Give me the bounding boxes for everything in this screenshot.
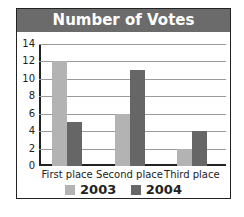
y-tick-label: 6 [21,109,35,119]
plot-area: 02468101214 [39,44,226,166]
bar-2003-second-place [115,114,130,166]
legend-item-2004: 2004 [131,182,182,197]
y-tick-label: 10 [21,74,35,84]
x-tick-label: Third place [157,169,227,180]
gridline [39,44,226,45]
y-tick-label: 12 [21,56,35,66]
x-tick-label: Second place [95,169,165,180]
chart-frame: Number of Votes 02468101214 First placeS… [16,8,231,199]
legend-label-2004: 2004 [146,182,182,197]
y-tick-label: 2 [21,144,35,154]
chart-title: Number of Votes [17,9,230,32]
legend-swatch-2003 [65,185,75,195]
legend: 2003 2004 [17,182,230,197]
legend-swatch-2004 [131,185,141,195]
legend-item-2003: 2003 [65,182,116,197]
y-tick-label: 14 [21,39,35,49]
y-tick-label: 8 [21,91,35,101]
bar-2004-first-place [67,122,82,166]
bar-2004-second-place [130,70,145,166]
bar-2003-first-place [52,61,67,166]
x-tick-label: First place [32,169,102,180]
y-tick-label: 4 [21,126,35,136]
bar-2003-third-place [177,149,192,166]
legend-label-2003: 2003 [80,182,116,197]
bar-2004-third-place [192,131,207,166]
